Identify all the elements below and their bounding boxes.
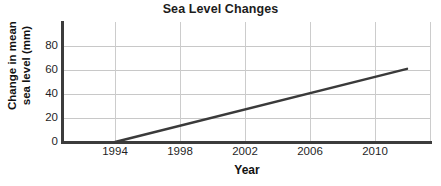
y-axis-title-line1: Change in mean <box>6 7 20 125</box>
sea-level-trend-line <box>115 69 407 142</box>
x-tick-label-2006: 2006 <box>280 146 340 158</box>
y-tick-label-20: 20 <box>32 112 58 124</box>
chart-figure: Sea Level Changes 80 60 40 20 0 1994 199… <box>0 0 441 186</box>
y-tick-label-80: 80 <box>32 40 58 52</box>
y-axis-title: Change in mean sea level (mm) <box>6 7 33 125</box>
x-tick-label-2010: 2010 <box>345 146 405 158</box>
data-series-line <box>0 0 441 186</box>
x-tick-label-1998: 1998 <box>150 146 210 158</box>
x-tick-label-1994: 1994 <box>85 146 145 158</box>
x-axis-title: Year <box>63 163 431 177</box>
y-tick-label-40: 40 <box>32 88 58 100</box>
y-axis-title-line2: sea level (mm) <box>20 7 34 125</box>
y-tick-label-0: 0 <box>32 136 58 148</box>
y-tick-label-60: 60 <box>32 64 58 76</box>
x-tick-label-2002: 2002 <box>215 146 275 158</box>
